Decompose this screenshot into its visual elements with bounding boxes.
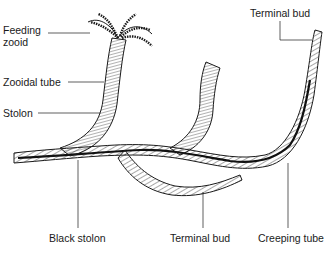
zooidal-tube: [60, 38, 126, 156]
leader-lines: [38, 21, 312, 228]
label-zooidal-tube: Zooidal tube: [3, 76, 61, 88]
label-terminal-bud-top: Terminal bud: [250, 7, 310, 19]
organism-illustration: [0, 0, 334, 255]
label-black-stolon: Black stolon: [49, 232, 106, 244]
label-stolon: Stolon: [3, 107, 33, 119]
label-terminal-bud-bottom: Terminal bud: [170, 232, 230, 244]
label-creeping-tube: Creeping tube: [258, 232, 324, 244]
label-feeding-zooid-line1: Feeding: [3, 24, 41, 36]
side-tube: [170, 62, 220, 155]
diagram-canvas: Feeding zooid Zooidal tube Stolon Termin…: [0, 0, 334, 255]
label-feeding-zooid-line2: zooid: [3, 36, 28, 48]
